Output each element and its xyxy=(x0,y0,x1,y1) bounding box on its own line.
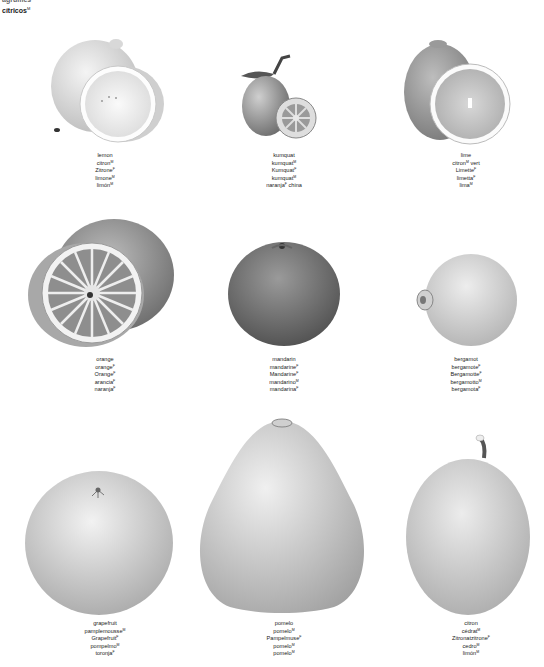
name-en: lime xyxy=(411,152,521,159)
lime-illustration xyxy=(400,38,530,150)
name-de: MandarineF xyxy=(229,370,339,378)
gender-marker: M xyxy=(110,160,113,164)
gender-marker: F xyxy=(299,635,301,639)
page-heading: agrumes cítricosM xyxy=(2,0,31,15)
gender-marker: M xyxy=(477,628,480,632)
name-fr: pamplemousseM xyxy=(50,627,160,635)
term-text: pomelo xyxy=(273,643,291,649)
term-text: bergamota xyxy=(452,386,479,392)
gender-marker: M xyxy=(476,650,479,654)
term-text: Zitronatzitrone xyxy=(452,635,488,641)
name-es: limaM xyxy=(411,181,521,189)
term-text: naranja xyxy=(266,182,285,188)
name-de: GrapefruitF xyxy=(50,634,160,642)
gender-marker: F xyxy=(113,364,115,368)
gender-marker: M xyxy=(117,643,120,647)
term-text: Pampelmuse xyxy=(267,635,300,641)
term-text: citron xyxy=(464,620,478,626)
name-fr: bergamoteF xyxy=(411,363,521,371)
gender-marker: F xyxy=(112,650,114,654)
term-text: cedro xyxy=(463,643,477,649)
term-text: kumquat xyxy=(272,160,293,166)
gender-marker: F xyxy=(113,371,115,375)
name-es: limónM xyxy=(50,181,160,189)
term-text: lemon xyxy=(97,152,112,158)
term-text: Mandarine xyxy=(270,371,296,377)
term-text: mandarina xyxy=(270,386,296,392)
term-text: orange xyxy=(96,356,113,362)
bergamot-illustration xyxy=(415,250,520,350)
gender-marker: F xyxy=(488,635,490,639)
kumquat-illustration xyxy=(236,50,326,140)
name-en: pomelo xyxy=(229,620,339,627)
gender-marker: M xyxy=(292,643,295,647)
gender-marker: M xyxy=(112,175,115,179)
term-text: limón xyxy=(463,650,476,656)
name-es: naranjaF china xyxy=(229,181,339,189)
name-it: mandarinoM xyxy=(229,378,339,386)
heading-line-2: cítricosM xyxy=(2,4,31,15)
name-fr: citronM vert xyxy=(411,159,521,167)
name-fr: citronM xyxy=(50,159,160,167)
term-text: mandarine xyxy=(270,364,296,370)
term-text: citron xyxy=(452,160,466,166)
name-de: OrangeF xyxy=(50,370,160,378)
term-text: toronja xyxy=(95,650,112,656)
name-it: kumquatM xyxy=(229,174,339,182)
term-text: china xyxy=(287,182,302,188)
lemon-illustration xyxy=(40,34,170,144)
citron-illustration xyxy=(400,432,535,617)
term-text: cédrat xyxy=(462,628,478,634)
term-text: Grapefruit xyxy=(91,635,116,641)
gender-marker: F xyxy=(478,386,480,390)
pomelo-label: pomelo pomeloM PampelmuseF pomeloM pomel… xyxy=(229,620,339,657)
term-text: bergamotto xyxy=(450,379,478,385)
orange-illustration xyxy=(24,215,179,350)
gender-marker: F xyxy=(296,386,298,390)
name-es: toronjaF xyxy=(50,649,160,657)
name-es: mandarinaF xyxy=(229,385,339,393)
name-en: kumquat xyxy=(229,152,339,159)
term-text: lima xyxy=(459,182,469,188)
gender-marker: F xyxy=(294,167,296,171)
term-text: limón xyxy=(97,182,110,188)
gender-marker: F xyxy=(113,167,115,171)
term-text: pomelo xyxy=(273,628,291,634)
name-es: naranjaF xyxy=(50,385,160,393)
term-text: Orange xyxy=(95,371,114,377)
term-text: pomelo xyxy=(273,650,291,656)
name-fr: orangeF xyxy=(50,363,160,371)
name-de: PampelmuseF xyxy=(229,634,339,642)
name-es: limónM xyxy=(416,649,526,657)
name-de: KumquatF xyxy=(229,166,339,174)
term-text: mandarino xyxy=(269,379,295,385)
gender-marker: F xyxy=(479,371,481,375)
gender-marker: F xyxy=(113,386,115,390)
gender-marker: M xyxy=(296,379,299,383)
mandarin-illustration xyxy=(224,238,344,348)
lime-label: lime citronM vert LimetteF limettaF lima… xyxy=(411,152,521,189)
name-de: LimetteF xyxy=(411,166,521,174)
term-text: arancia xyxy=(95,379,113,385)
gender-marker: F xyxy=(474,167,476,171)
name-fr: kumquatM xyxy=(229,159,339,167)
name-it: aranciaF xyxy=(50,378,160,386)
pomelo-illustration xyxy=(194,415,370,615)
name-it: cedroM xyxy=(416,642,526,650)
term-text: bergamot xyxy=(454,356,478,362)
term-text: orange xyxy=(95,364,112,370)
term-text: limone xyxy=(95,175,111,181)
name-fr: cédratM xyxy=(416,627,526,635)
gender-marker: F xyxy=(473,175,475,179)
term-text: Zitrone xyxy=(95,167,112,173)
gender-marker: M xyxy=(479,379,482,383)
gender-marker: F xyxy=(116,635,118,639)
name-it: pomeloM xyxy=(229,642,339,650)
gender-marker: M xyxy=(293,160,296,164)
kumquat-label: kumquat kumquatM KumquatF kumquatM naran… xyxy=(229,152,339,189)
gender-marker: F xyxy=(296,364,298,368)
lemon-label: lemon citronM ZitroneF limoneM limónM xyxy=(50,152,160,189)
name-en: grapefruit xyxy=(50,620,160,627)
name-es: bergamotaF xyxy=(411,385,521,393)
term-text: vert xyxy=(469,160,480,166)
